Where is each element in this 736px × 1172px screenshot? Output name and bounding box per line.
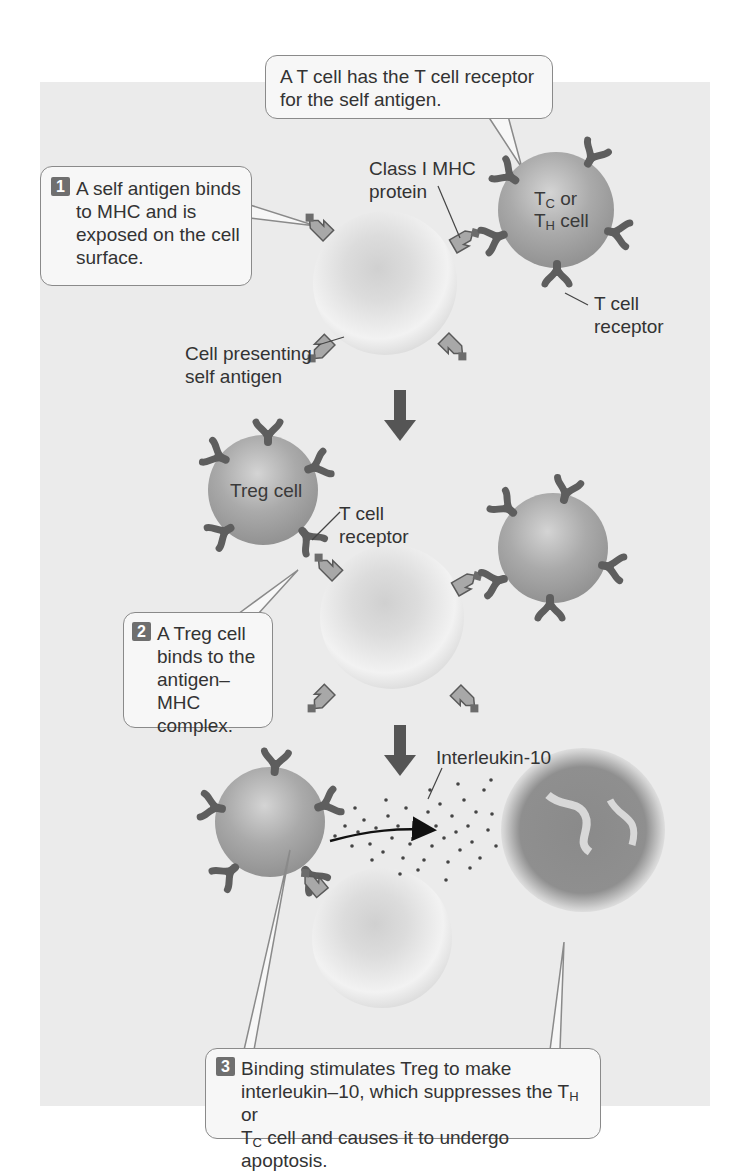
down-arrow-1 xyxy=(384,390,416,441)
label-interleukin-10: Interleukin-10 xyxy=(436,746,551,769)
step-badge-1: 1 xyxy=(51,177,70,196)
label-class1-mhc: Class I MHC protein xyxy=(369,157,479,203)
callout-step-3-line2: interleukin–10, which suppresses the TH … xyxy=(241,1080,590,1126)
callout-step-1: 1 A self antigen binds to MHC and is exp… xyxy=(40,166,252,286)
presenting-cell-3 xyxy=(312,868,452,1008)
label-tc-th-cell: TC or TH cell xyxy=(534,188,589,232)
callout-step-1-text: A self antigen binds to MHC and is expos… xyxy=(76,177,241,269)
presenting-cell-2 xyxy=(320,545,464,689)
callout-step-2: 2 A Treg cell binds to the antigen–MHC c… xyxy=(123,612,273,728)
secretion-arrow xyxy=(330,829,432,841)
presenting-cell-1 xyxy=(313,211,457,355)
apoptotic-cell xyxy=(501,748,665,912)
label-t-cell-receptor-1: T cell receptor xyxy=(594,292,674,338)
down-arrow-2 xyxy=(384,725,416,776)
callout-step-3: 3 Binding stimulates Treg to make interl… xyxy=(205,1048,601,1139)
stage-3 xyxy=(200,748,665,1050)
label-cell-presenting: Cell presenting self antigen xyxy=(185,342,325,388)
callout-step-3-line3: TC cell and causes it to undergo apoptos… xyxy=(241,1126,590,1172)
callout-top: A T cell has the T cell receptor for the… xyxy=(265,55,553,119)
callout-step-2-text: A Treg cell binds to the antigen–MHC com… xyxy=(157,622,264,737)
step-badge-3: 3 xyxy=(216,1057,235,1076)
step-badge-2: 2 xyxy=(132,622,151,641)
label-t-cell-receptor-2: T cell receptor xyxy=(339,502,419,548)
callout-step-3-line1: Binding stimulates Treg to make xyxy=(241,1057,590,1080)
label-treg-cell: Treg cell xyxy=(230,480,302,502)
treg-cell-3 xyxy=(215,767,325,877)
callout-top-text: A T cell has the T cell receptor for the… xyxy=(280,66,534,110)
